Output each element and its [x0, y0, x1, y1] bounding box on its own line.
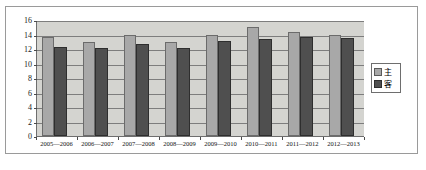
x-tick-mark [323, 137, 324, 140]
legend-swatch-guest-icon [374, 80, 382, 88]
y-tick-mark [34, 79, 37, 80]
y-tick-label: 0 [28, 133, 32, 141]
x-tick-label: 2010—2011 [241, 140, 282, 148]
y-tick-label: 6 [28, 90, 32, 98]
legend-label-host: 主 [384, 68, 392, 77]
y-tick-label: 8 [28, 75, 32, 83]
bar [54, 47, 66, 136]
legend-item-guest: 客 [374, 78, 398, 90]
y-tick-mark [34, 36, 37, 37]
y-tick-mark [34, 123, 37, 124]
bar [206, 35, 218, 137]
bar [165, 42, 177, 136]
bar [288, 32, 300, 136]
bar [42, 37, 54, 136]
legend-item-host: 主 [374, 66, 398, 78]
x-tick-mark [200, 137, 201, 140]
bar [177, 48, 189, 136]
y-axis: 0246810121416 [12, 0, 32, 170]
y-tick-mark [34, 65, 37, 66]
x-tick-label: 2006—2007 [77, 140, 118, 148]
x-tick-label: 2009—2010 [200, 140, 241, 148]
bar [95, 48, 107, 136]
x-tick-label: 2008—2009 [159, 140, 200, 148]
x-tick-mark [36, 137, 37, 140]
gridline [37, 21, 364, 22]
y-tick-label: 10 [24, 61, 32, 69]
x-tick-mark [77, 137, 78, 140]
x-tick-mark [241, 137, 242, 140]
bar [300, 37, 312, 136]
x-tick-mark [282, 137, 283, 140]
x-tick-label: 2005—2006 [36, 140, 77, 148]
chart-legend: 主 客 [371, 63, 401, 93]
x-tick-mark [364, 137, 365, 140]
y-tick-label: 14 [24, 32, 32, 40]
x-tick-mark [118, 137, 119, 140]
y-tick-label: 4 [28, 104, 32, 112]
bar [136, 44, 148, 136]
bar [83, 42, 95, 136]
bar [124, 35, 136, 137]
legend-swatch-host-icon [374, 68, 382, 76]
chart-figure: 0246810121416 2005—20062006—20072007—200… [0, 0, 426, 170]
y-tick-mark [34, 94, 37, 95]
y-tick-label: 16 [24, 17, 32, 25]
y-tick-mark [34, 108, 37, 109]
y-tick-mark [34, 21, 37, 22]
x-tick-label: 2011—2012 [282, 140, 323, 148]
bar [259, 39, 271, 136]
y-tick-mark [34, 50, 37, 51]
x-tick-label: 2012—2013 [323, 140, 364, 148]
y-tick-label: 12 [24, 46, 32, 54]
gridline [37, 36, 364, 37]
y-tick-label: 2 [28, 119, 32, 127]
bar [341, 38, 353, 136]
x-tick-label: 2007—2008 [118, 140, 159, 148]
plot-area [36, 21, 364, 137]
bar [247, 27, 259, 136]
x-tick-mark [159, 137, 160, 140]
bar [218, 41, 230, 136]
legend-label-guest: 客 [384, 80, 392, 89]
bar [329, 35, 341, 137]
